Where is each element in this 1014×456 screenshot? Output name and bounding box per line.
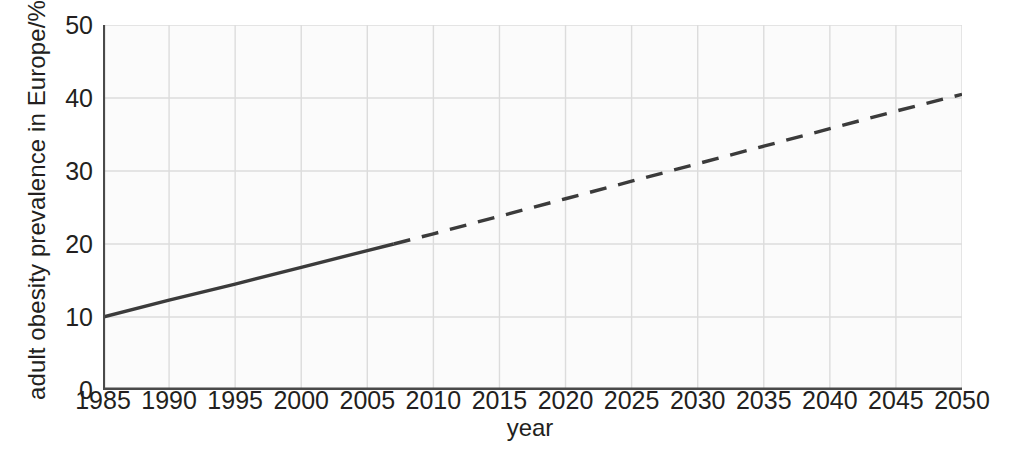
horizontal-gridlines xyxy=(103,25,962,317)
vertical-gridlines xyxy=(103,25,962,390)
data-series-projected xyxy=(394,94,962,244)
y-tick-label: 50 xyxy=(47,13,93,38)
chart-figure: adult obesity prevalence in Europe/% 010… xyxy=(0,0,1014,456)
plot-svg xyxy=(103,25,962,390)
y-tick-label: 10 xyxy=(47,305,93,330)
x-axis-title: year xyxy=(430,414,630,442)
data-series-observed xyxy=(103,244,394,317)
x-tick-label: 2050 xyxy=(922,388,1002,413)
y-tick-label: 40 xyxy=(47,86,93,111)
y-tick-label: 20 xyxy=(47,232,93,257)
axis-lines xyxy=(103,25,962,390)
plot-area xyxy=(103,25,962,390)
y-tick-label: 30 xyxy=(47,159,93,184)
data-series-group xyxy=(103,94,962,317)
